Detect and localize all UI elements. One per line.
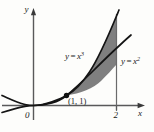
cubic-label-equals: = bbox=[71, 51, 76, 61]
cubic-label-y: y bbox=[64, 51, 69, 61]
parabola-label-exponent: 2 bbox=[137, 56, 140, 62]
parabola-label-y: y bbox=[120, 56, 125, 66]
x-tick-label-2: 2 bbox=[114, 110, 119, 120]
cubic-curve-label: y=x3 bbox=[64, 51, 84, 61]
y-axis-arrowhead bbox=[31, 8, 36, 15]
graph-canvas: y x 0 2 (1, 1) y=x3 y=x2 bbox=[0, 0, 154, 132]
figure-container: y x 0 2 (1, 1) y=x3 y=x2 bbox=[0, 0, 154, 132]
svg-text:y=x2: y=x2 bbox=[120, 56, 140, 66]
cubic-label-exponent: 3 bbox=[80, 51, 84, 57]
parabola-label-equals: = bbox=[127, 56, 132, 66]
x-axis-label: x bbox=[137, 108, 142, 118]
parabola-curve-label: y=x2 bbox=[120, 56, 140, 66]
svg-text:y=x3: y=x3 bbox=[64, 51, 84, 61]
origin-label: 0 bbox=[25, 110, 30, 120]
y-axis-label: y bbox=[24, 4, 29, 14]
intersection-point-label: (1, 1) bbox=[68, 96, 87, 106]
